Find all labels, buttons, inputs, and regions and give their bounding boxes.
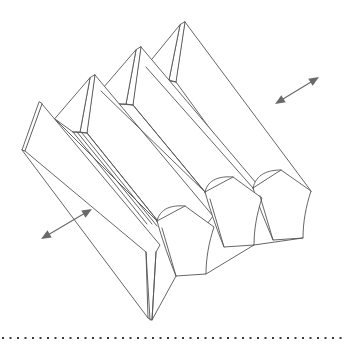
figure-container	[0, 0, 347, 357]
arrow-upper-right-head-end	[308, 77, 319, 86]
arrow-upper-right-shaft	[280, 80, 314, 101]
expansion-direction-arrow-lower-left	[41, 209, 92, 239]
arrow-lower-left-head-end	[81, 209, 92, 218]
corrugated-structure-drawing	[0, 0, 347, 357]
edge-flap2-lower	[206, 245, 254, 274]
expansion-direction-arrow-upper-right	[275, 77, 319, 104]
edge-ridge4-to-flap3	[152, 276, 176, 320]
arrow-upper-right-head-start	[275, 95, 286, 104]
arrow-lower-left-shaft	[46, 212, 87, 236]
arrow-lower-left-head-start	[41, 230, 52, 239]
